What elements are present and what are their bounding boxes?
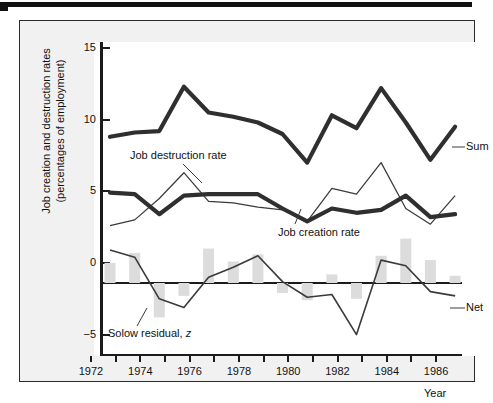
solow-residual-bar: [105, 263, 116, 283]
top-rule-cap: [0, 2, 8, 11]
solow-residual-bar: [400, 239, 411, 283]
series-job-destruction-line: [110, 163, 455, 226]
solow-residual-bar: [178, 283, 189, 296]
solow-residual-bar: [425, 260, 436, 283]
annotation-job-creation: Job creation rate: [278, 226, 360, 238]
leader-job-destruction: [183, 164, 202, 183]
solow-residual-bar: [326, 274, 337, 283]
solow-residual-bar: [351, 283, 362, 299]
top-rule-divider: [0, 2, 472, 7]
x-axis-title: Year: [424, 387, 446, 399]
figure-root: Job creation and destruction rates (perc…: [0, 0, 493, 403]
annotation-sum: Sum: [466, 140, 489, 152]
annotation-job-destruction: Job destruction rate: [130, 149, 227, 161]
annotation-net: Net: [466, 301, 483, 313]
chart-canvas: [20, 21, 493, 403]
solow-residual-bar: [252, 254, 263, 283]
solow-residual-bar: [450, 276, 461, 283]
leader-solow-residual: [137, 308, 147, 326]
annotation-solow-residual: Solow residual, z: [108, 327, 191, 339]
solow-residual-bars: [105, 239, 461, 318]
series-job-creation-line: [110, 193, 455, 222]
figure-frame: Job creation and destruction rates (perc…: [19, 20, 475, 382]
